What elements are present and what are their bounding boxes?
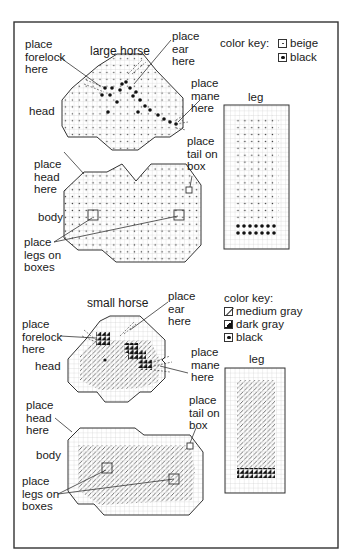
label-small-mane: place mane here [191,346,220,384]
label-small-horse-title: small horse [87,297,148,310]
label-large-ear: place ear here [172,30,200,68]
small-horse-body [68,428,203,515]
large-horse-leg [224,105,289,249]
beige-swatch-icon [278,39,287,48]
large-horse-body [64,164,201,262]
horse-pattern-figure: place forelock here large horse place ea… [0,0,342,552]
color-key-item-black: black [278,51,317,63]
color-key-item-dark-gray: dark gray [224,318,284,330]
label-large-color-key-title: color key: [220,37,269,50]
label-small-ear: place ear here [168,290,196,328]
label-large-forelock: place forelock here [25,38,65,76]
dark-gray-swatch-icon [224,320,233,329]
small-horse-leg [225,368,285,493]
color-key-item-medium-gray: medium gray [224,305,302,317]
label-small-legs: place legs on boxes [22,475,59,513]
color-key-item-beige: beige [278,37,318,49]
label-small-head: head [35,360,61,373]
label-small-color-key-title: color key: [224,292,273,305]
black-swatch-icon [278,53,287,62]
label-large-body: body [38,211,63,224]
label-small-body: body [36,449,61,462]
label-large-head: head [29,105,55,118]
label-large-head-here: place head here [34,158,62,196]
pattern-artwork [0,0,342,552]
label-large-legs: place legs on boxes [24,236,61,274]
label-small-tail: place tail on box [189,394,220,432]
label-small-head-here: place head here [26,399,54,437]
label-large-mane: place mane here [191,77,220,115]
label-large-leg: leg [248,91,263,104]
label-small-forelock: place forelock here [22,318,62,356]
color-key-item-black-small: black [224,331,263,343]
black-swatch-icon [224,333,233,342]
label-small-leg: leg [249,353,264,366]
label-large-tail: place tail on box [187,135,218,173]
label-large-horse-title: large horse [90,45,150,58]
medium-gray-swatch-icon [224,307,233,316]
